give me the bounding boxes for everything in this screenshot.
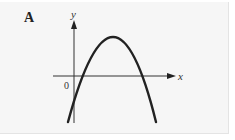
parabola-curve bbox=[68, 37, 156, 122]
graph: x y 0 bbox=[0, 0, 235, 140]
x-axis-label: x bbox=[177, 70, 183, 82]
y-axis-arrow-icon bbox=[71, 20, 77, 29]
origin-label: 0 bbox=[64, 80, 69, 91]
y-axis-label: y bbox=[70, 8, 76, 20]
x-axis-arrow-icon bbox=[167, 73, 176, 79]
